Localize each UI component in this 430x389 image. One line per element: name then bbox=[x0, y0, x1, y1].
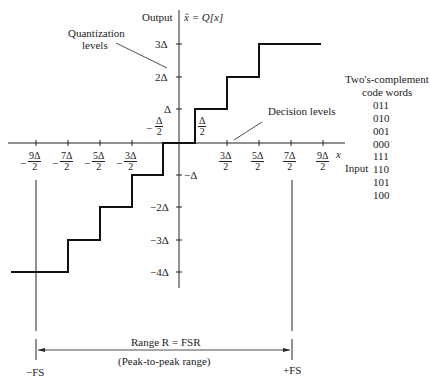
y-tick-label: −3Δ bbox=[150, 234, 169, 246]
quantization-levels-label-2: levels bbox=[82, 39, 108, 51]
y-tick-label: 3Δ bbox=[155, 38, 168, 50]
code-words-title-2: code words bbox=[362, 86, 412, 98]
code-word: 000 bbox=[373, 138, 390, 150]
x-tick-label: 9Δ2 bbox=[316, 151, 329, 172]
arrow-left-icon bbox=[38, 348, 45, 352]
input-label: Input bbox=[345, 162, 368, 174]
code-word: 101 bbox=[373, 176, 390, 188]
arrow-right-icon bbox=[283, 348, 290, 352]
output-function: x̂ = Q[x] bbox=[184, 11, 223, 23]
x-tick-label: 7Δ2 bbox=[283, 151, 296, 172]
plus-fs-label: +FS bbox=[283, 364, 301, 376]
code-words-title: Two's-complement bbox=[345, 73, 429, 85]
input-symbol: x bbox=[336, 148, 341, 160]
x-tick-label: 5Δ2 bbox=[251, 151, 264, 172]
code-word: 011 bbox=[373, 99, 389, 111]
x-tick-label: 9Δ2 bbox=[28, 151, 41, 172]
y-tick-label: −2Δ bbox=[150, 201, 169, 213]
x-tick-label: Δ2 bbox=[155, 116, 163, 137]
code-word: 100 bbox=[373, 189, 390, 201]
range-label: Range R = FSR bbox=[131, 336, 200, 348]
y-tick-label: 2Δ bbox=[155, 71, 168, 83]
code-word: 001 bbox=[373, 125, 390, 137]
decision-levels-pointer bbox=[234, 122, 262, 140]
range-sublabel: (Peak-to-peak range) bbox=[118, 355, 211, 367]
decision-levels-label: Decision levels bbox=[268, 105, 336, 117]
quantization-levels-label: Quantization bbox=[68, 27, 125, 39]
y-tick-label: −Δ bbox=[184, 169, 197, 181]
code-word: 111 bbox=[373, 150, 389, 162]
x-tick-label: 5Δ2 bbox=[92, 151, 105, 172]
code-word: 010 bbox=[373, 112, 390, 124]
quantizer-diagram bbox=[0, 0, 430, 389]
x-tick-label: 3Δ2 bbox=[124, 151, 137, 172]
minus-fs-label: −FS bbox=[26, 366, 44, 378]
y-tick-label: Δ bbox=[164, 103, 171, 115]
x-tick-label: 7Δ2 bbox=[60, 151, 73, 172]
x-tick-label: 3Δ2 bbox=[219, 151, 232, 172]
code-word: 110 bbox=[373, 163, 389, 175]
x-tick-label: Δ2 bbox=[198, 116, 206, 137]
y-tick-label: −4Δ bbox=[150, 266, 169, 278]
output-label: Output bbox=[142, 11, 173, 23]
